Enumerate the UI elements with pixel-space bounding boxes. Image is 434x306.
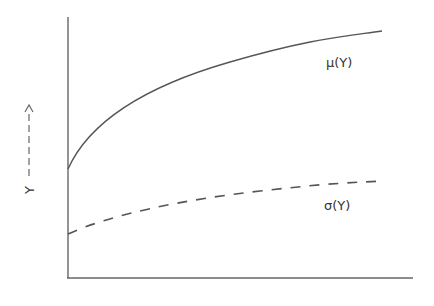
- mu-label: μ(Y): [326, 55, 352, 70]
- y-axis-label-text: Y: [22, 186, 37, 195]
- chart-canvas: Y μ(Y) σ(Y): [0, 0, 434, 306]
- sigma-label: σ(Y): [324, 198, 350, 213]
- y-axis-label: Y: [22, 105, 37, 195]
- mu-curve: [68, 31, 382, 169]
- arrow-up-icon: [25, 105, 33, 112]
